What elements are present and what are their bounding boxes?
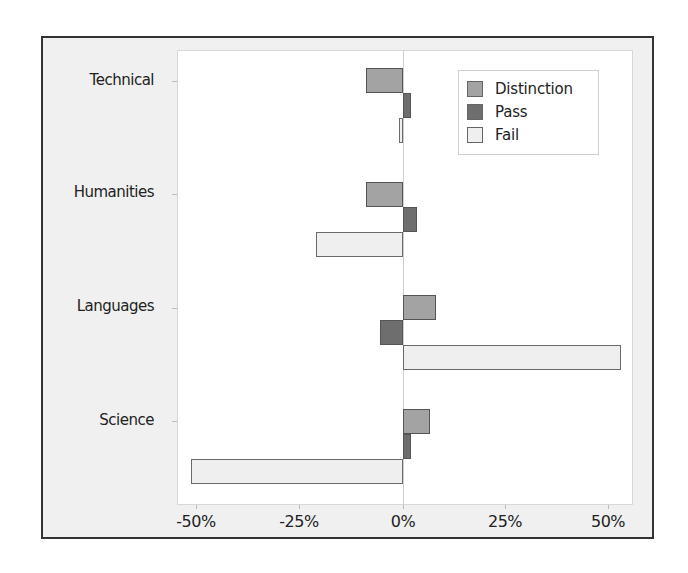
legend-label-fail: Fail <box>495 126 519 144</box>
x-tick-label: 0% <box>391 512 415 531</box>
bar-humanities-distinction <box>366 182 403 207</box>
category-label-humanities: Humanities <box>74 183 154 201</box>
x-tick <box>299 505 300 509</box>
x-tick <box>403 505 404 509</box>
bar-science-pass <box>403 434 411 459</box>
bar-science-distinction <box>403 409 430 434</box>
x-tick <box>196 505 197 509</box>
category-label-science: Science <box>99 411 154 429</box>
legend: Distinction Pass Fail <box>458 70 599 155</box>
y-tick <box>172 194 177 195</box>
legend-label-distinction: Distinction <box>495 80 573 98</box>
bar-technical-pass <box>403 93 411 118</box>
x-tick-label: -50% <box>176 512 215 531</box>
legend-swatch-pass <box>467 104 483 120</box>
y-tick <box>172 421 177 422</box>
bar-humanities-pass <box>403 207 417 232</box>
legend-label-pass: Pass <box>495 103 527 121</box>
x-tick-label: 25% <box>488 512 522 531</box>
legend-swatch-fail <box>467 127 483 143</box>
y-tick <box>172 308 177 309</box>
x-tick-label: -25% <box>279 512 318 531</box>
legend-item-fail: Fail <box>467 125 519 145</box>
bar-technical-fail <box>399 118 403 143</box>
bar-technical-distinction <box>366 68 403 93</box>
x-tick <box>608 505 609 509</box>
category-label-languages: Languages <box>77 297 154 315</box>
bar-languages-distinction <box>403 295 436 320</box>
bar-languages-pass <box>380 320 403 345</box>
legend-item-distinction: Distinction <box>467 79 573 99</box>
bar-science-fail <box>191 459 403 484</box>
legend-item-pass: Pass <box>467 102 527 122</box>
category-label-technical: Technical <box>90 71 154 89</box>
legend-swatch-distinction <box>467 81 483 97</box>
x-tick-label: 50% <box>591 512 625 531</box>
y-tick <box>172 81 177 82</box>
x-tick <box>505 505 506 509</box>
bar-humanities-fail <box>316 232 403 257</box>
bar-languages-fail <box>403 345 621 370</box>
